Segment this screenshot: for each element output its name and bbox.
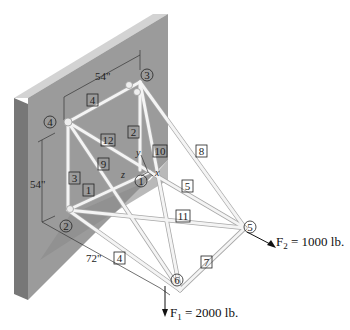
svg-text:2: 2 [131, 126, 137, 138]
member-label-8: 8 [196, 145, 207, 157]
joint-ball-3a [126, 82, 133, 89]
force-f1-arrowhead [162, 309, 168, 317]
svg-text:4: 4 [117, 252, 123, 264]
svg-text:10: 10 [155, 145, 167, 157]
axis-x-label: x [154, 167, 160, 178]
force-f1-value: = 2000 lb. [182, 305, 238, 320]
truss-diagram: 54" 54" 72" [0, 0, 350, 330]
member-label-11: 11 [176, 210, 190, 222]
svg-text:4: 4 [90, 94, 96, 106]
joint-ball-3b [134, 89, 141, 96]
force-f2-symbol: F [276, 234, 283, 249]
svg-text:3: 3 [72, 172, 78, 184]
axis-y-label: y [135, 147, 141, 158]
member-label-10: 10 [153, 145, 167, 157]
svg-text:F2 = 1000 lb.: F2 = 1000 lb. [276, 234, 344, 251]
svg-text:5: 5 [247, 221, 253, 233]
svg-text:3: 3 [144, 69, 150, 81]
svg-text:5: 5 [185, 180, 191, 192]
wall-side-face [14, 98, 28, 300]
dim-top-width: 54" [95, 70, 111, 82]
svg-text:9: 9 [101, 158, 107, 170]
svg-text:6: 6 [174, 274, 180, 286]
svg-text:2: 2 [63, 220, 69, 232]
joint-ball-2 [67, 206, 74, 213]
member-label-12: 12 [101, 134, 115, 146]
member-label-4-bottom: 4 [114, 252, 125, 264]
force-f2-arrow [247, 232, 272, 245]
axis-z-label: z [120, 169, 125, 180]
svg-text:11: 11 [178, 210, 189, 222]
svg-text:1: 1 [138, 175, 144, 187]
svg-text:8: 8 [199, 145, 205, 157]
force-f2-arrowhead [267, 240, 276, 248]
svg-text:12: 12 [103, 134, 114, 146]
svg-text:F1 = 2000 lb.: F1 = 2000 lb. [170, 305, 238, 322]
force-f1-symbol: F [170, 305, 177, 320]
svg-text:4: 4 [47, 116, 53, 128]
force-f1: F1 = 2000 lb. [162, 286, 238, 322]
force-f2: F2 = 1000 lb. [247, 232, 344, 251]
joint-ball-4 [64, 118, 72, 126]
force-f2-value: = 1000 lb. [288, 234, 344, 249]
svg-text:7: 7 [204, 256, 210, 268]
dim-depth: 72" [86, 252, 102, 264]
svg-text:1: 1 [86, 184, 92, 196]
dim-height: 54" [30, 178, 46, 190]
